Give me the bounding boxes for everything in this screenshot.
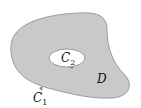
region-diagram: C2 D C1	[0, 0, 141, 108]
label-d: D	[97, 73, 107, 85]
label-c1: C1	[33, 92, 47, 107]
label-c2: C2	[61, 52, 75, 67]
